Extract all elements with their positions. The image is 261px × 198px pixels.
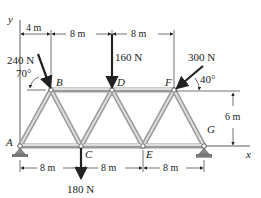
node-label-C: C: [85, 148, 93, 160]
pin-support-A: [12, 148, 28, 157]
top-dimensions: [21, 30, 174, 88]
dim-top-0: 4 m: [26, 22, 42, 33]
node-label-F: F: [164, 76, 172, 88]
y-axis-label: y: [7, 13, 13, 25]
dim-bottom-0: 8 m: [40, 162, 56, 173]
dim-bottom-2: 8 m: [163, 162, 179, 173]
angle-label-B: 70°: [16, 67, 31, 79]
node-label-E: E: [145, 148, 153, 160]
dim-bottom-1: 8 m: [101, 162, 117, 173]
joint-B: [49, 88, 53, 92]
node-label-D: D: [116, 76, 125, 88]
joint-C: [79, 144, 83, 148]
dim-height: 6 m: [225, 111, 241, 122]
dim-top-1: 8 m: [70, 28, 86, 39]
dim-top-2: 8 m: [131, 28, 147, 39]
joint-A: [18, 144, 22, 148]
pin-support-G: [196, 148, 212, 158]
load-label-C: 180 N: [67, 183, 94, 195]
node-label-G: G: [207, 123, 215, 135]
load-label-D: 160 N: [115, 51, 142, 63]
joint-G: [202, 144, 206, 148]
joint-D: [110, 88, 114, 92]
joint-F: [172, 88, 176, 92]
load-arrow-B: [38, 54, 50, 87]
node-label-A: A: [5, 136, 13, 148]
truss-members: [20, 90, 204, 146]
load-label-B: 240 N: [7, 54, 34, 66]
joint-E: [141, 144, 145, 148]
truss-diagram: y x: [0, 0, 261, 198]
load-label-F: 300 N: [188, 51, 215, 63]
x-axis-label: x: [245, 148, 251, 160]
angle-label-F: 40°: [200, 73, 215, 85]
node-label-B: B: [56, 76, 63, 88]
